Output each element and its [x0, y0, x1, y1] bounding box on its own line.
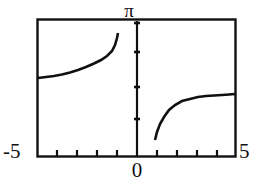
y-axis-max-label: π: [0, 1, 258, 20]
x-axis-max-label: 5: [239, 141, 250, 162]
x-axis-min-label: -5: [3, 141, 21, 162]
x-axis-origin-label: 0: [110, 160, 164, 181]
plot-figure: π -5 5 0: [0, 0, 258, 190]
